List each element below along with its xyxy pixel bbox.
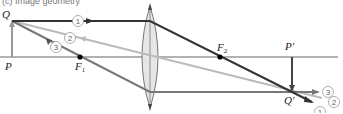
svg-text:3: 3: [326, 88, 331, 97]
svg-text:1: 1: [318, 108, 323, 113]
ray-1: [12, 18, 314, 103]
thin-lens-ray-diagram: (c) Image geometry Q P F1 F2: [0, 0, 343, 113]
ray-1-badge-right: 1: [315, 107, 326, 114]
focal-point-f1: [77, 54, 82, 59]
label-q-prime: Q′: [284, 94, 295, 106]
svg-text:1: 1: [76, 17, 81, 26]
label-f1: F1: [74, 60, 86, 74]
object-arrow: [9, 20, 15, 57]
ray-3-badge-left: 3: [51, 42, 62, 53]
image-arrow: [289, 57, 295, 92]
arrowhead-icon: [304, 96, 314, 103]
ray-1-badge-left: 1: [73, 16, 84, 27]
lens-bottom-arrow-icon: [148, 104, 152, 111]
arrowhead-icon: [86, 18, 94, 24]
svg-text:2: 2: [332, 98, 337, 107]
label-p-prime: P′: [284, 40, 295, 52]
label-f2: F2: [216, 41, 228, 55]
ray-3-badge-right: 3: [323, 87, 334, 98]
lens-top-arrow-icon: [148, 3, 152, 10]
svg-text:2: 2: [68, 34, 73, 43]
arrowhead-icon: [312, 89, 320, 95]
svg-text:3: 3: [54, 43, 59, 52]
figure-caption: (c) Image geometry: [2, 0, 81, 6]
label-q: Q: [2, 8, 10, 20]
ray-2-badge-left: 2: [65, 33, 76, 44]
label-p: P: [4, 60, 12, 72]
ray-2: [12, 21, 322, 98]
ray-2-badge-right: 2: [329, 97, 340, 108]
focal-point-f2: [217, 54, 222, 59]
